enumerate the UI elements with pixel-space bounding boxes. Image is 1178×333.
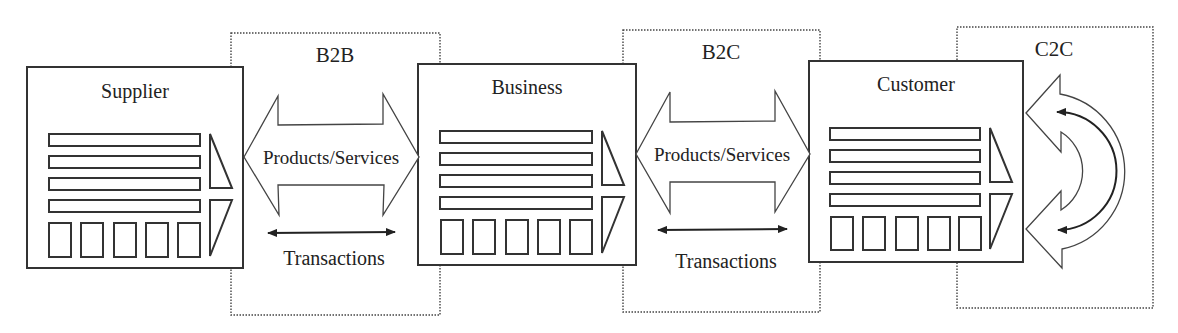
b2b-flow-label: Products/Services <box>263 147 399 168</box>
business-box: Business <box>418 64 636 265</box>
b2c-label: B2C <box>702 40 741 64</box>
b2b-transactions: Transactions <box>268 232 395 269</box>
b2b-label: B2B <box>316 43 355 67</box>
b2c-products-arrow: Products/Services <box>636 91 810 213</box>
b2b-products-arrow: Products/Services <box>244 94 419 215</box>
business-label: Business <box>491 76 562 98</box>
b2c-flow-label: Products/Services <box>654 144 790 165</box>
b2c-transactions-label: Transactions <box>675 250 777 272</box>
b2c-transactions: Transactions <box>658 229 787 272</box>
customer-label: Customer <box>877 73 955 95</box>
b2b-transactions-label: Transactions <box>283 247 385 269</box>
double-arrow-icon <box>658 229 787 230</box>
supplier-label: Supplier <box>101 80 169 103</box>
c2c-cycle-arrow <box>1026 75 1125 268</box>
customer-box: Customer <box>809 61 1023 262</box>
double-arrow-icon <box>268 232 395 233</box>
ecommerce-models-diagram: B2B B2C C2C Supplier Business <box>0 0 1178 333</box>
supplier-box: Supplier <box>27 67 243 268</box>
c2c-label: C2C <box>1035 37 1074 61</box>
